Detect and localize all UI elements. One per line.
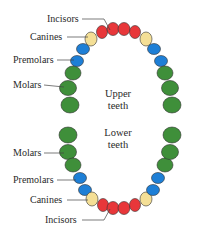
lower-teeth-label: Lower teeth [93, 127, 143, 151]
upper-premolar-left-1 [77, 44, 90, 55]
label-upper-canines: Canines [30, 32, 62, 42]
upper-canine-left [85, 32, 97, 46]
label-lower-premolars: Premolars [13, 175, 54, 185]
label-lower-canines: Canines [30, 195, 62, 205]
lower-molar-right-1 [157, 158, 173, 172]
lower-incisor-3 [118, 202, 130, 215]
lower-molar-right-2 [162, 145, 179, 160]
label-lower-molars: Molars [13, 148, 41, 158]
lower-teeth-label-line1: Lower [93, 127, 143, 139]
lower-molar-right-3 [163, 127, 181, 143]
lower-teeth-label-line2: teeth [93, 139, 143, 151]
upper-incisor-4 [130, 26, 141, 39]
lower-premolar-left-2 [74, 173, 87, 184]
upper-molar-right-3 [163, 97, 181, 113]
lower-incisor-4 [130, 199, 141, 212]
lower-canine-left [86, 192, 98, 206]
upper-teeth-label-line1: Upper [93, 88, 143, 100]
upper-canine-right [140, 32, 152, 46]
upper-molar-left-2 [60, 81, 77, 96]
lower-molar-left-1 [65, 158, 81, 172]
upper-molar-right-2 [162, 81, 179, 96]
upper-incisor-2 [107, 23, 119, 36]
lower-incisor-1 [98, 199, 109, 212]
label-upper-premolars: Premolars [13, 55, 54, 65]
upper-premolar-right-1 [148, 44, 161, 55]
lower-premolar-right-1 [147, 185, 160, 196]
lower-premolar-right-2 [152, 173, 165, 184]
upper-molar-right-1 [157, 66, 173, 80]
label-upper-molars: Molars [13, 80, 41, 90]
upper-premolar-right-2 [155, 56, 168, 67]
label-lower-incisors: Incisors [45, 215, 77, 225]
upper-molar-left-3 [61, 97, 79, 113]
upper-premolar-left-2 [71, 56, 84, 67]
upper-teeth-label: Upper teeth [93, 88, 143, 112]
lower-molar-left-2 [60, 145, 77, 160]
lower-molar-left-3 [59, 127, 77, 143]
label-upper-incisors: Incisors [47, 14, 79, 24]
upper-incisor-3 [118, 23, 130, 36]
upper-incisor-1 [97, 26, 108, 39]
upper-molar-left-1 [65, 66, 81, 80]
upper-teeth-label-line2: teeth [93, 100, 143, 112]
lower-incisor-2 [107, 202, 119, 215]
